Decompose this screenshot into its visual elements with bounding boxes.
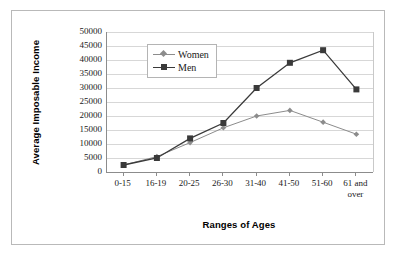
y-axis-tick-label: 10000: [56, 139, 102, 148]
legend-item-women[interactable]: Women: [153, 48, 209, 61]
data-point-men-31-40[interactable]: [254, 85, 260, 91]
legend-marker-men-icon: [153, 62, 175, 73]
data-point-men-26-30[interactable]: [220, 120, 226, 126]
y-axis-tick-label: 50000: [56, 27, 102, 36]
y-axis-tick-label: 30000: [56, 83, 102, 92]
y-axis-tick-label: 15000: [56, 125, 102, 134]
x-axis-tick-mark: [322, 172, 323, 176]
x-axis-tick-mark: [123, 172, 124, 176]
legend-label-men: Men: [178, 62, 196, 73]
y-axis-tick-label: 25000: [56, 97, 102, 106]
data-point-men-51-60[interactable]: [320, 47, 326, 53]
x-axis-tick-mark: [222, 172, 223, 176]
data-point-women-41-50[interactable]: [287, 108, 293, 114]
x-axis-tick-mark: [355, 172, 356, 176]
y-axis-tick-labels: 0500010000150002000025000300003500040000…: [52, 32, 102, 172]
x-axis-tick-mark: [289, 172, 290, 176]
x-axis-tick-labels: 0-1516-1920-2526-3031-4041-5051-6061 and…: [106, 178, 372, 214]
y-axis-tick-label: 45000: [56, 41, 102, 50]
plot-area: Women Men: [106, 32, 373, 173]
y-axis-tick-label: 20000: [56, 111, 102, 120]
y-axis-tick-label: 5000: [56, 153, 102, 162]
y-axis-title: Average Imposable Income: [30, 28, 41, 178]
legend-item-men[interactable]: Men: [153, 61, 209, 74]
data-point-men-41-50[interactable]: [287, 60, 293, 66]
data-point-men-20-25[interactable]: [187, 135, 193, 141]
chart-frame: Average Imposable Income 050001000015000…: [11, 10, 385, 245]
y-axis-tick-label: 40000: [56, 55, 102, 64]
chart-legend[interactable]: Women Men: [147, 44, 217, 78]
x-axis-tick-label: 61 and over: [334, 178, 376, 200]
data-point-men-61 and over[interactable]: [353, 86, 359, 92]
data-point-men-0-15[interactable]: [121, 162, 127, 168]
x-axis-tick-mark: [156, 172, 157, 176]
data-point-women-31-40[interactable]: [254, 113, 260, 119]
legend-marker-women-icon: [153, 49, 175, 60]
data-point-men-16-19[interactable]: [154, 155, 160, 161]
y-axis-tick-label: 35000: [56, 69, 102, 78]
legend-label-women: Women: [178, 49, 209, 60]
y-axis-tick-label: 0: [56, 167, 102, 176]
x-axis-title: Ranges of Ages: [106, 219, 372, 230]
x-axis-tick-mark: [189, 172, 190, 176]
data-point-women-51-60[interactable]: [320, 119, 326, 125]
x-axis-tick-mark: [256, 172, 257, 176]
data-point-women-61 and over[interactable]: [354, 131, 360, 137]
